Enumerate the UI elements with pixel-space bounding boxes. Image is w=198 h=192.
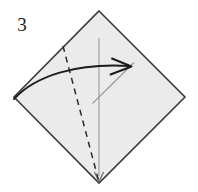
step-number-label: 3 [17, 14, 27, 35]
origami-diagram-svg: 3 [0, 0, 198, 192]
origami-figure: 3 [0, 0, 198, 192]
